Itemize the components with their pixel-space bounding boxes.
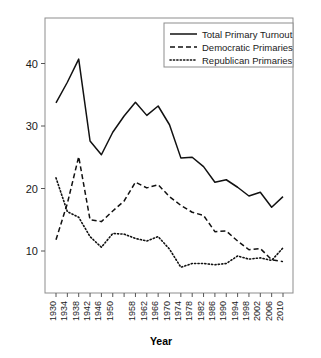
x-tick-label: 2002 [252,301,262,321]
x-tick-label: 1934 [59,301,69,321]
chart-figure: 10203040 1930193419381942194619501958196… [0,0,321,358]
y-tick-label: 30 [26,120,38,132]
x-tick-label: 1946 [93,301,103,321]
x-tick-label: 1938 [71,301,81,321]
x-tick-label: 1950 [105,301,115,321]
y-tick-label: 40 [26,58,38,70]
x-tick-label: 1986 [207,301,217,321]
y-tick-label: 20 [26,183,38,195]
legend-label: Democratic Primaries [202,42,293,53]
legend-box: Total Primary TurnoutDemocratic Primarie… [164,23,293,67]
x-tick-label: 1966 [150,301,160,321]
line-chart-canvas: 10203040 1930193419381942194619501958196… [0,0,321,358]
x-tick-label: 1990 [218,301,228,321]
x-tick-label: 1998 [241,301,251,321]
x-tick-label: 1994 [230,301,240,321]
legend-label: Republican Primaries [202,55,293,66]
x-tick-label: 1982 [196,301,206,321]
y-tick-label: 10 [26,245,38,257]
x-tick-label: 1942 [82,301,92,321]
x-tick-label: 2006 [264,301,274,321]
x-tick-label: 1962 [139,301,149,321]
x-tick-label: 2010 [275,301,285,321]
x-tick-label: 1974 [173,301,183,321]
x-tick-label: 1958 [127,301,137,321]
x-tick-label: 1978 [184,301,194,321]
x-axis-title: Year [150,335,172,347]
x-tick-label: 1970 [162,301,172,321]
legend-label: Total Primary Turnout [202,29,293,40]
x-tick-label: 1930 [48,301,58,321]
